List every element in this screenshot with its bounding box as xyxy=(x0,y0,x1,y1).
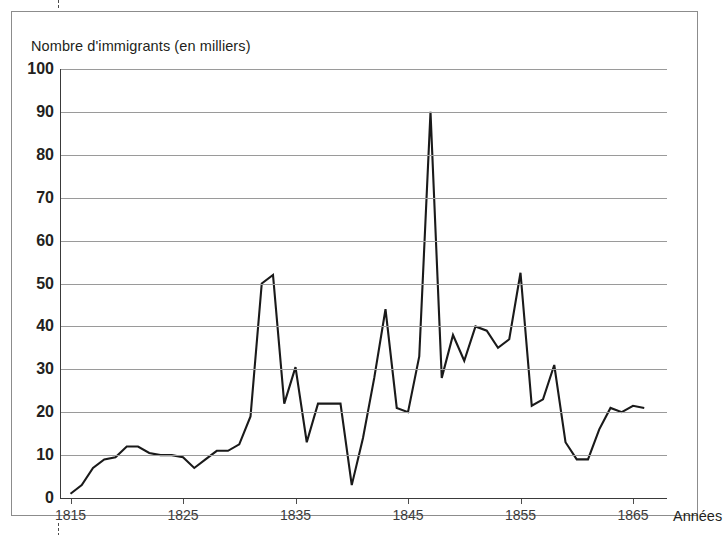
x-tick-1855 xyxy=(521,499,522,504)
x-tick-label-1825: 1825 xyxy=(167,507,198,523)
x-tick-1845 xyxy=(408,499,409,504)
gridline-50 xyxy=(60,284,667,285)
gridline-70 xyxy=(60,198,667,199)
y-axis-caption: Nombre d'immigrants (en milliers) xyxy=(31,38,251,54)
y-tick-label-10: 10 xyxy=(36,447,54,463)
y-tick-label-20: 20 xyxy=(36,404,54,420)
plot-area xyxy=(60,69,667,498)
gridline-30 xyxy=(60,369,667,370)
y-tick-label-30: 30 xyxy=(36,361,54,377)
gridline-100 xyxy=(60,69,667,70)
y-axis-spine xyxy=(60,69,61,499)
x-tick-label-group: 181518251835184518551865 xyxy=(12,507,725,527)
y-tick-label-80: 80 xyxy=(36,147,54,163)
gridline-90 xyxy=(60,112,667,113)
y-tick-label-50: 50 xyxy=(36,276,54,292)
x-tick-1825 xyxy=(183,499,184,504)
y-tick-label-group: 0102030405060708090100 xyxy=(12,69,54,498)
y-tick-label-60: 60 xyxy=(36,233,54,249)
y-tick-label-0: 0 xyxy=(45,490,54,506)
x-axis-caption: Années xyxy=(673,508,722,524)
gridline-60 xyxy=(60,241,667,242)
gridline-80 xyxy=(60,155,667,156)
registration-tick-top xyxy=(58,0,59,9)
immigrants-line xyxy=(71,112,645,494)
y-tick-label-40: 40 xyxy=(36,318,54,334)
gridline-40 xyxy=(60,326,667,327)
x-tick-1815 xyxy=(71,499,72,504)
x-tick-1835 xyxy=(296,499,297,504)
gridline-10 xyxy=(60,455,667,456)
y-tick-label-100: 100 xyxy=(27,61,54,77)
y-tick-label-90: 90 xyxy=(36,104,54,120)
x-tick-group xyxy=(60,499,667,505)
x-tick-label-1865: 1865 xyxy=(617,507,648,523)
y-tick-label-70: 70 xyxy=(36,190,54,206)
x-tick-label-1855: 1855 xyxy=(505,507,536,523)
x-tick-1865 xyxy=(633,499,634,504)
gridline-20 xyxy=(60,412,667,413)
figure-frame: Nombre d'immigrants (en milliers) 010203… xyxy=(11,11,698,516)
x-tick-label-1845: 1845 xyxy=(392,507,423,523)
x-tick-label-1835: 1835 xyxy=(280,507,311,523)
x-tick-label-1815: 1815 xyxy=(55,507,86,523)
